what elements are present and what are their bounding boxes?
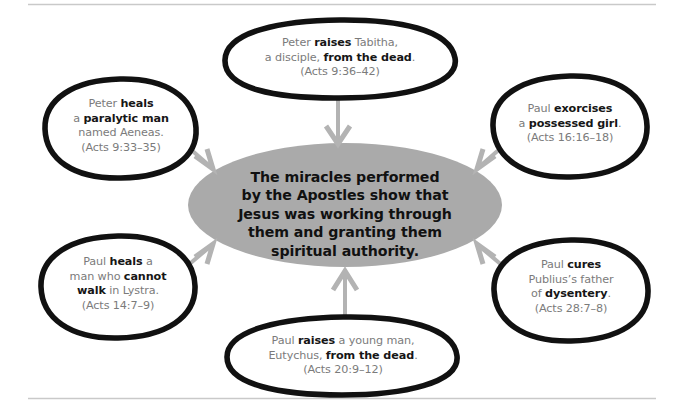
diagram-graphics (0, 0, 676, 417)
node-upper-right-shape (493, 76, 647, 177)
arrow-top (326, 100, 350, 144)
node-lower-right-shape (494, 240, 648, 341)
arrow-bottom (333, 271, 357, 318)
node-top-shape (225, 20, 455, 98)
center-ellipse (188, 143, 502, 267)
node-bottom-shape (227, 317, 457, 395)
node-lower-left-shape (41, 236, 195, 338)
node-upper-left-shape (45, 79, 196, 178)
diagram-canvas: The miracles performed by the Apostles s… (0, 0, 676, 417)
